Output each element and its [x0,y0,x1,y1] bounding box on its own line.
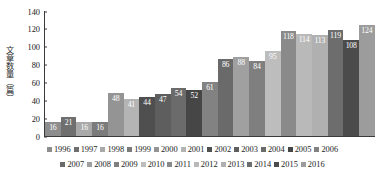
legend-item-2010[interactable]: 2010 [138,160,165,169]
legend-swatch-icon [87,162,92,167]
bar-value-label: 47 [159,96,166,104]
legend-label: 2010 [148,160,165,169]
bar-value-label: 44 [143,99,150,107]
legend-swatch-icon [274,162,279,167]
legend-label: 2012 [201,160,218,169]
legend-item-2004[interactable]: 2004 [258,145,285,154]
legend-swatch-icon [127,147,132,152]
legend-item-2003[interactable]: 2003 [231,145,258,154]
bar-2000: 48 [108,93,124,136]
bar-value-label: 52 [190,92,197,100]
legend-swatch-icon [221,162,226,167]
bar-slot: 48 [108,11,124,136]
y-tick-label: 60 [32,78,44,87]
legend-swatch-icon [181,147,186,152]
legend-label: 1996 [54,145,71,154]
bar-slot: 44 [139,11,155,136]
bar-1996: 16 [45,122,61,136]
legend-item-2005[interactable]: 2005 [285,145,312,154]
bar-slot: 118 [281,11,297,136]
legend-item-2014[interactable]: 2014 [244,160,271,169]
bar-slot: 16 [92,11,108,136]
plot-area: 140120100806040200 162116164841444754526… [44,11,375,137]
bar-slot: 61 [202,11,218,136]
legend-label: 2015 [281,160,298,169]
legend-label: 1999 [134,145,151,154]
bar-value-label: 118 [283,33,294,41]
bar-value-label: 113 [314,37,325,45]
legend-label: 2002 [214,145,231,154]
legend-swatch-icon [167,162,172,167]
legend-item-2002[interactable]: 2002 [204,145,231,154]
legend-label: 2014 [254,160,271,169]
bar-value-label: 88 [238,59,245,67]
bar-2013: 113 [312,35,328,136]
y-tick-label: 100 [27,43,44,52]
legend-item-2006[interactable]: 2006 [311,145,338,154]
bar-slot: 16 [76,11,92,136]
legend-item-2015[interactable]: 2015 [271,160,298,169]
legend-item-2016[interactable]: 2016 [298,160,325,169]
legend-swatch-icon [234,147,239,152]
y-tick-label: 80 [32,61,44,70]
bar-value-label: 114 [299,36,310,44]
bar-2007: 86 [218,59,234,136]
bar-2004: 54 [171,88,187,136]
legend-item-2012[interactable]: 2012 [191,160,218,169]
bar-2009: 84 [249,61,265,136]
bar-2003: 47 [155,94,171,136]
bar-slot: 47 [155,11,171,136]
y-tick-label: 40 [32,96,44,105]
legend-item-1997[interactable]: 1997 [71,145,98,154]
legend-label: 2013 [228,160,245,169]
legend-item-1998[interactable]: 1998 [97,145,124,154]
legend-item-1999[interactable]: 1999 [124,145,151,154]
legend-item-2013[interactable]: 2013 [218,160,245,169]
bar-slot: 16 [45,11,61,136]
bar-value-label: 41 [128,101,135,109]
legend-item-2009[interactable]: 2009 [111,160,138,169]
bar-slot: 114 [296,11,312,136]
legend-swatch-icon [141,162,146,167]
bar-slot: 108 [343,11,359,136]
legend-label: 1998 [107,145,124,154]
legend-item-2001[interactable]: 2001 [178,145,205,154]
bar-2001: 41 [124,99,140,136]
chart-legend: 1996199719981999200020012002200320042005… [0,142,382,172]
bar-value-label: 16 [49,124,56,132]
bar-2002: 44 [139,97,155,136]
y-tick-label: 0 [36,132,44,141]
bar-value-label: 124 [361,27,372,35]
bar-2012: 114 [296,34,312,136]
legend-swatch-icon [100,147,105,152]
legend-label: 2005 [295,145,312,154]
bar-2010: 95 [265,51,281,136]
bar-value-label: 16 [96,124,103,132]
legend-item-1996[interactable]: 1996 [44,145,71,154]
legend-item-2007[interactable]: 2007 [57,160,84,169]
bar-slot: 84 [249,11,265,136]
legend-label: 2007 [67,160,84,169]
legend-row-2: 2007200820092010201120122013201420152016 [0,157,382,172]
legend-label: 2011 [174,160,190,169]
bar-series: 1621161648414447545261868884951181141131… [45,11,375,136]
x-axis-line [44,136,375,137]
bar-slot: 21 [61,11,77,136]
legend-item-2008[interactable]: 2008 [84,160,111,169]
legend-swatch-icon [261,147,266,152]
legend-label: 1997 [81,145,98,154]
legend-item-2000[interactable]: 2000 [151,145,178,154]
legend-swatch-icon [288,147,293,152]
legend-swatch-icon [314,147,319,152]
legend-label: 2016 [308,160,325,169]
legend-item-2011[interactable]: 2011 [164,160,190,169]
legend-swatch-icon [47,147,52,152]
bar-slot: 86 [218,11,234,136]
legend-label: 2006 [321,145,338,154]
bar-2016: 124 [359,25,375,136]
bar-2008: 88 [233,57,249,136]
bar-slot: 124 [359,11,375,136]
y-axis-title: 文章数量（篇） [2,28,15,120]
legend-swatch-icon [194,162,199,167]
legend-label: 2004 [268,145,285,154]
